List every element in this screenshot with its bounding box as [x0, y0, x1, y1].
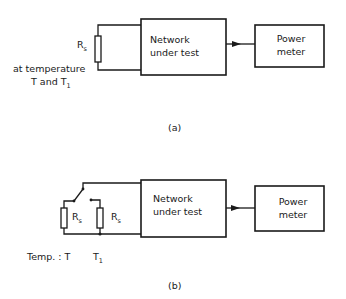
network-box-b-label: Network under test — [153, 192, 202, 218]
temperature-subscript: 1 — [99, 257, 103, 265]
temp-label-left-b: Temp. : T — [27, 251, 70, 262]
resistor-right-label-b: Rs — [111, 211, 121, 224]
resistor-label-a: Rs — [77, 39, 87, 52]
resistor-subscript: s — [79, 217, 82, 225]
temperature-label-a-line2: T and T1 — [31, 76, 71, 89]
temperature-subscript: 1 — [67, 82, 71, 90]
resistor-symbol: R — [72, 211, 79, 222]
power-meter-a-label: Power meter — [273, 32, 309, 58]
temperature-text: T and T — [31, 76, 67, 87]
resistor-subscript: s — [118, 217, 121, 225]
power-meter-line1: Power — [273, 32, 309, 45]
network-line2: under test — [153, 205, 202, 218]
temperature-text: T — [93, 251, 99, 262]
temperature-label-a-line1: at temperature — [13, 63, 85, 74]
power-meter-line2: meter — [275, 208, 311, 221]
diagram-a-wiring — [98, 25, 141, 70]
network-box-a-label: Network under test — [150, 33, 199, 59]
network-line1: Network — [153, 192, 202, 205]
caption-b: (b) — [168, 280, 181, 291]
resistor-subscript: s — [84, 45, 87, 53]
caption-a: (a) — [168, 122, 181, 133]
resistor-left-label-b: Rs — [72, 211, 82, 224]
resistor-rs-right-b — [97, 208, 103, 228]
power-meter-b-label: Power meter — [275, 195, 311, 221]
network-line1: Network — [150, 33, 199, 46]
power-meter-line1: Power — [275, 195, 311, 208]
temp-label-right-b: T1 — [93, 251, 103, 264]
resistor-rs-a — [95, 36, 101, 62]
power-meter-line2: meter — [273, 45, 309, 58]
network-line2: under test — [150, 46, 199, 59]
resistor-symbol: R — [77, 39, 84, 50]
resistor-rs-left-b — [61, 208, 67, 228]
resistor-symbol: R — [111, 211, 118, 222]
